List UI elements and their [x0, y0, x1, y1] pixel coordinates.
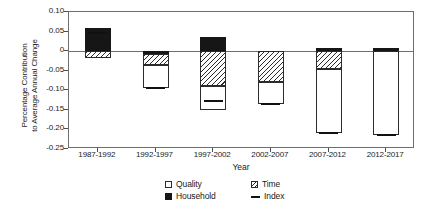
quality-swatch-icon [165, 181, 172, 188]
y-tick-mark [64, 89, 68, 90]
y-tick-mark [64, 11, 68, 12]
y-axis-title-line1: Percentage Contribution [20, 11, 30, 161]
x-tick-mark [328, 148, 329, 152]
bar-segment-time [258, 51, 284, 82]
index-marker [88, 32, 107, 34]
y-tick-label: 0.10 [34, 7, 64, 15]
x-tick-mark [212, 148, 213, 152]
y-tick-mark [64, 31, 68, 32]
y-tick-mark [64, 50, 68, 51]
index-marker [377, 134, 396, 136]
y-tick-label: 0 [34, 46, 64, 54]
plot-area [68, 11, 414, 148]
bar-group [316, 12, 342, 147]
legend-label: Time [262, 179, 280, 190]
bar-group [200, 12, 226, 147]
bar-group [373, 12, 399, 147]
x-tick-mark [270, 148, 271, 152]
time-swatch-icon [251, 181, 258, 188]
index-marker [319, 132, 338, 134]
bar-group [85, 12, 111, 147]
bar-segment-quality [258, 82, 284, 104]
legend-item-quality: Quality [165, 179, 202, 190]
legend-label: Index [264, 191, 284, 202]
index-marker [261, 103, 280, 105]
bar-segment-quality [373, 51, 399, 135]
y-tick-mark [64, 70, 68, 71]
chart-legend: QualityHouseholdTimeIndex [165, 179, 355, 203]
chart-figure: Percentage Contribution to Average Annua… [0, 0, 429, 207]
bar-segment-quality [143, 65, 169, 88]
x-tick-mark [155, 148, 156, 152]
legend-item-time: Time [251, 179, 280, 190]
index-line-swatch-icon [251, 193, 260, 200]
index-marker [146, 87, 165, 89]
legend-item-index: Index [251, 191, 284, 202]
y-axis-tick-labels: 0.100.050-0.05-0.10-0.15-0.20-0.25 [33, 0, 64, 207]
zero-baseline [69, 51, 413, 52]
bar-group [143, 12, 169, 147]
index-marker [204, 100, 223, 102]
y-tick-label: -0.25 [34, 144, 64, 152]
household-swatch-icon [165, 193, 172, 200]
x-tick-mark [385, 148, 386, 152]
legend-label: Quality [176, 179, 202, 190]
legend-label: Household [176, 191, 216, 202]
x-axis-title: Year [68, 162, 414, 172]
bar-segment-quality [200, 86, 226, 109]
bar-group [258, 12, 284, 147]
bar-segment-household [200, 37, 226, 51]
bar-segment-time [200, 51, 226, 86]
y-tick-mark [64, 148, 68, 149]
bar-segment-time [85, 51, 111, 58]
bar-segment-quality [316, 69, 342, 134]
legend-item-household: Household [165, 191, 216, 202]
y-tick-label: -0.15 [34, 105, 64, 113]
y-tick-label: -0.10 [34, 85, 64, 93]
y-tick-label: -0.20 [34, 124, 64, 132]
y-tick-mark [64, 109, 68, 110]
y-tick-mark [64, 128, 68, 129]
x-tick-mark [97, 148, 98, 152]
bar-segment-time [316, 51, 342, 69]
y-tick-label: -0.05 [34, 66, 64, 74]
y-tick-label: 0.05 [34, 27, 64, 35]
bar-segment-time [143, 54, 169, 65]
